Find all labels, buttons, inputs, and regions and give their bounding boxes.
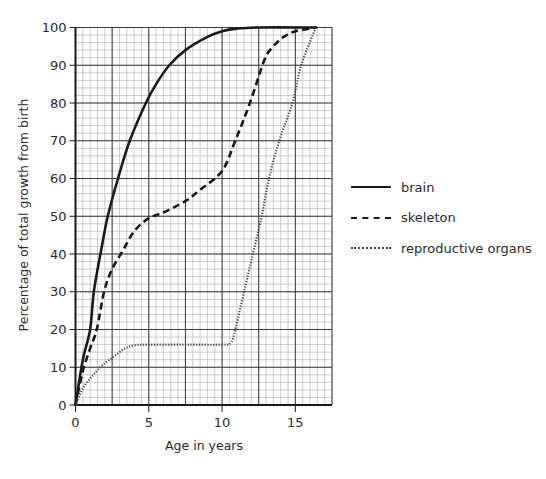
y-tick-label: 90 <box>50 58 67 73</box>
legend: brain skeleton reproductive organs <box>351 172 532 264</box>
y-tick-label: 10 <box>50 360 67 375</box>
y-tick-label: 80 <box>50 96 67 111</box>
x-axis-title: Age in years <box>165 438 243 453</box>
y-tick-label: 20 <box>50 322 67 337</box>
y-tick-label: 40 <box>50 247 67 262</box>
x-tick-label: 0 <box>71 415 79 430</box>
y-tick-label: 50 <box>50 209 67 224</box>
dotted-line-icon <box>351 247 391 249</box>
x-tick-label: 10 <box>214 415 231 430</box>
y-tick-label: 30 <box>50 284 67 299</box>
major-grid <box>76 28 333 406</box>
legend-label: skeleton <box>401 210 456 225</box>
solid-line-icon <box>351 186 391 188</box>
y-tick-label: 60 <box>50 171 67 186</box>
legend-label: reproductive organs <box>401 241 532 256</box>
legend-item-skeleton: skeleton <box>351 203 532 234</box>
y-tick-label: 70 <box>50 133 67 148</box>
legend-item-brain: brain <box>351 172 532 203</box>
axes <box>70 28 333 413</box>
legend-label: brain <box>401 180 434 195</box>
y-axis-title: Percentage of total growth from birth <box>16 99 31 332</box>
y-tick-label: 100 <box>42 20 67 35</box>
x-tick-label: 15 <box>287 415 304 430</box>
y-tick-label: 0 <box>58 398 66 413</box>
legend-item-reproductive-organs: reproductive organs <box>351 233 532 264</box>
x-tick-label: 5 <box>145 415 153 430</box>
dashed-line-icon <box>351 217 391 219</box>
